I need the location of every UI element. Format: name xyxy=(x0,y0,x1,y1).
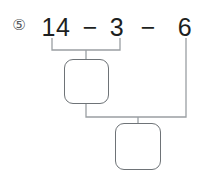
answer-box-first-step[interactable] xyxy=(64,59,109,104)
bracket-14-minus-3 xyxy=(52,38,120,50)
worksheet-problem: ⑤ 14 − 3 − 6 xyxy=(0,0,206,177)
answer-box-final[interactable] xyxy=(115,123,161,170)
